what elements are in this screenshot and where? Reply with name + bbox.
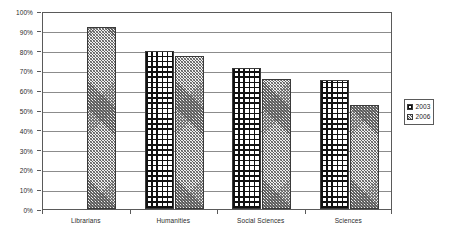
bar-2006-librarians — [87, 27, 116, 209]
y-tick-mark — [37, 71, 41, 72]
legend-item: 2006 — [407, 112, 430, 121]
x-axis-ticks — [42, 210, 392, 215]
x-tick-mark — [305, 210, 306, 214]
x-tick-label: Social Sciences — [237, 217, 284, 225]
y-axis: 0%10%20%30%40%50%60%70%80%90%100% — [0, 12, 38, 210]
x-tick-mark — [391, 210, 392, 214]
legend-item: 2003 — [407, 103, 430, 112]
chart-legend: 2003 2006 — [404, 99, 434, 125]
legend-swatch-2003-icon — [407, 104, 413, 110]
y-tick-mark — [37, 130, 41, 131]
bar-2003-sciences — [320, 80, 349, 209]
x-axis: LibrariansHumanitiesSocial SciencesScien… — [42, 217, 392, 229]
bar-2006-social-sciences — [262, 79, 291, 209]
y-tick-label: 30% — [20, 147, 33, 154]
bar-2006-humanities — [175, 56, 204, 209]
x-tick-mark — [130, 210, 131, 214]
y-tick-mark — [37, 51, 41, 52]
bar-2003-humanities — [145, 51, 174, 209]
y-tick-mark — [37, 31, 41, 32]
legend-label: 2006 — [416, 113, 431, 121]
y-tick-label: 60% — [20, 88, 33, 95]
y-tick-label: 100% — [16, 9, 33, 16]
x-tick-mark — [217, 210, 218, 214]
y-tick-mark — [37, 91, 41, 92]
y-tick-label: 70% — [20, 68, 33, 75]
bar-chart: 0%10%20%30%40%50%60%70%80%90%100% Librar… — [0, 0, 449, 239]
plot-area — [42, 12, 392, 210]
y-tick-label: 40% — [20, 127, 33, 134]
bar-2003-social-sciences — [232, 68, 261, 209]
bar-2006-sciences — [350, 105, 379, 209]
legend-label: 2003 — [416, 103, 431, 111]
x-tick-label: Librarians — [71, 217, 101, 225]
y-tick-mark — [37, 150, 41, 151]
x-tick-label: Humanities — [156, 217, 190, 225]
y-tick-mark — [37, 190, 41, 191]
y-tick-label: 20% — [20, 167, 33, 174]
y-tick-label: 10% — [20, 187, 33, 194]
y-tick-label: 50% — [20, 108, 33, 115]
y-tick-label: 0% — [23, 207, 33, 214]
y-tick-label: 80% — [20, 48, 33, 55]
y-tick-mark — [37, 210, 41, 211]
y-tick-mark — [37, 12, 41, 13]
legend-swatch-2006-icon — [407, 114, 413, 120]
x-tick-mark — [42, 210, 43, 214]
y-tick-mark — [37, 111, 41, 112]
y-tick-mark — [37, 170, 41, 171]
x-tick-label: Sciences — [335, 217, 362, 225]
y-tick-label: 90% — [20, 28, 33, 35]
